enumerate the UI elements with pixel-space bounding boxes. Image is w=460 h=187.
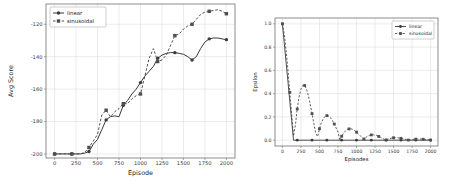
svg-text:Avg Score: Avg Score [7,65,15,97]
svg-text:1250: 1250 [369,149,381,154]
svg-text:1750: 1750 [198,160,211,166]
svg-text:sinusoidal: sinusoidal [67,18,94,24]
svg-text:1000: 1000 [351,149,363,154]
epsilon-chart-plot: 0250500750100012501500175020000.00.20.40… [245,0,460,187]
svg-text:Episodes: Episodes [345,156,369,163]
svg-text:1000: 1000 [134,160,147,166]
epsilon-chart: 0250500750100012501500175020000.00.20.40… [245,0,460,187]
svg-text:250: 250 [297,149,306,154]
svg-text:linear: linear [67,10,83,16]
svg-text:0.6: 0.6 [264,68,271,73]
avg-score-chart: 025050075010001250150017502000-200-180-1… [0,0,245,187]
svg-text:Episode: Episode [128,169,153,177]
svg-text:-200: -200 [31,151,43,157]
svg-text:-180: -180 [31,118,43,124]
svg-text:1.0: 1.0 [264,21,271,26]
svg-text:linear: linear [409,24,422,29]
svg-text:1250: 1250 [155,160,168,166]
svg-text:750: 750 [114,160,124,166]
svg-text:sinusoidal: sinusoidal [409,31,432,36]
svg-text:-160: -160 [31,86,43,92]
svg-text:-120: -120 [31,21,43,27]
svg-text:2000: 2000 [425,149,437,154]
avg-score-chart-plot: 025050075010001250150017502000-200-180-1… [0,0,245,187]
svg-text:1750: 1750 [406,149,418,154]
svg-text:500: 500 [93,160,103,166]
svg-text:0.4: 0.4 [264,91,271,96]
svg-text:-140: -140 [31,54,43,60]
svg-text:750: 750 [334,149,343,154]
svg-text:0.8: 0.8 [264,45,271,50]
svg-text:1500: 1500 [177,160,190,166]
svg-text:250: 250 [71,160,81,166]
svg-text:2000: 2000 [220,160,233,166]
svg-text:0.2: 0.2 [264,115,271,120]
svg-text:0: 0 [53,160,56,166]
svg-text:0: 0 [281,149,284,154]
svg-text:Epsilon: Epsilon [252,72,259,91]
svg-text:1500: 1500 [388,149,400,154]
svg-text:0.0: 0.0 [264,138,271,143]
svg-text:500: 500 [315,149,324,154]
figure-canvas: 025050075010001250150017502000-200-180-1… [0,0,460,187]
